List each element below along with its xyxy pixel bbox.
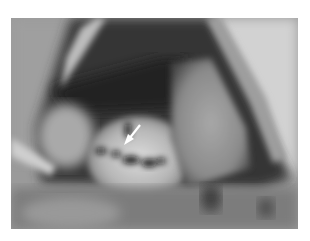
surgical-photo — [11, 18, 298, 229]
photo-rendering — [11, 18, 298, 229]
